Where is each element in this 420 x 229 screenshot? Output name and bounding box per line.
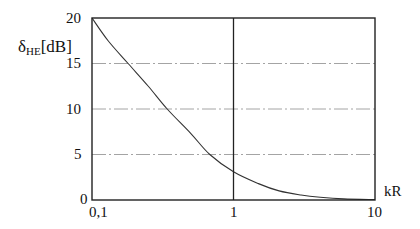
y-tick-0: 0 bbox=[80, 192, 88, 207]
y-tick-20: 20 bbox=[66, 11, 81, 26]
y-axis-label: δHE[dB] bbox=[18, 37, 72, 57]
x-tick-1: 1 bbox=[230, 205, 238, 220]
x-tick-10: 10 bbox=[367, 205, 382, 220]
y-tick-10: 10 bbox=[66, 102, 81, 117]
chart-plot bbox=[0, 0, 420, 229]
y-tick-5: 5 bbox=[74, 147, 82, 162]
x-axis-label: kR bbox=[384, 184, 402, 199]
y-tick-15: 15 bbox=[66, 56, 81, 71]
x-tick-0-1: 0,1 bbox=[89, 205, 108, 220]
